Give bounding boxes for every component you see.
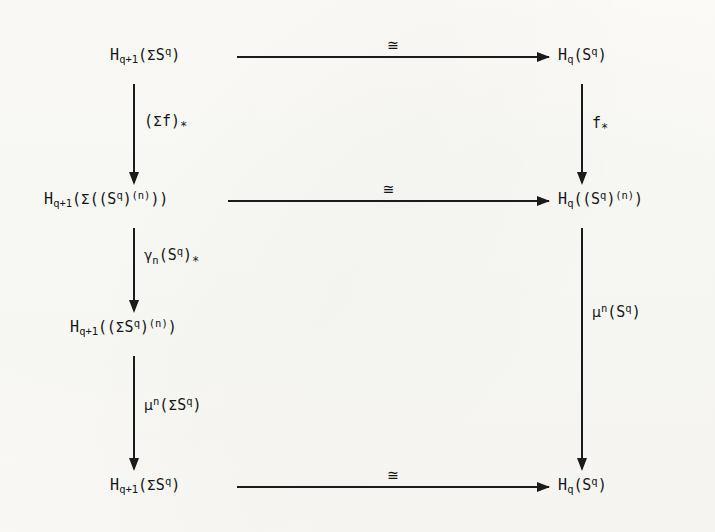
arrow-top-horizontal-label: ≅ — [387, 38, 399, 52]
node-bottom-right: Hq(Sq) — [558, 476, 606, 495]
arrow-left-mu-suspension: μn(ΣSq) — [133, 356, 135, 469]
node-top-right-text: Hq(Sq) — [558, 46, 606, 64]
arrow-top-horizontal: ≅ — [237, 56, 549, 58]
arrowhead-down-icon — [577, 172, 587, 185]
arrow-left-gamma: γn(Sq)* — [133, 228, 135, 311]
arrow-right-mu: μn(Sq) — [581, 228, 583, 469]
arrow-right-f-star-label: f* — [592, 116, 608, 134]
arrowhead-down-icon — [129, 172, 139, 185]
arrow-shaft — [237, 56, 549, 58]
arrow-left-suspension-f-label: (Σf)* — [144, 114, 187, 132]
arrowhead-down-icon — [129, 458, 139, 471]
node-row2-left: Hq+1(Σ((Sq)(n))) — [44, 190, 168, 209]
arrowhead-right-icon — [537, 482, 550, 492]
node-top-left-text: Hq+1(ΣSq) — [110, 46, 180, 64]
node-top-right: Hq(Sq) — [558, 46, 606, 65]
arrow-shaft — [133, 84, 135, 183]
node-row2-right: Hq((Sq)(n)) — [558, 190, 643, 209]
node-bottom-left: Hq+1(ΣSq) — [110, 476, 180, 495]
arrow-shaft — [581, 228, 583, 469]
arrow-right-f-star: f* — [581, 84, 583, 183]
arrow-shaft — [133, 228, 135, 311]
node-top-left: Hq+1(ΣSq) — [110, 46, 180, 65]
arrow-middle-horizontal-label: ≅ — [383, 182, 395, 196]
arrowhead-down-icon — [577, 458, 587, 471]
node-row3-left-text: Hq+1((ΣSq)(n)) — [70, 318, 176, 336]
node-row2-right-text: Hq((Sq)(n)) — [558, 190, 643, 208]
arrow-left-gamma-label: γn(Sq)* — [144, 246, 199, 267]
arrow-middle-horizontal: ≅ — [228, 200, 549, 202]
arrowhead-down-icon — [129, 300, 139, 313]
arrow-left-suspension-f: (Σf)* — [133, 84, 135, 183]
arrow-shaft — [228, 200, 549, 202]
arrow-shaft — [581, 84, 583, 183]
node-row2-left-text: Hq+1(Σ((Sq)(n))) — [44, 190, 168, 208]
arrow-left-mu-suspension-label: μn(ΣSq) — [144, 396, 202, 413]
arrow-bottom-horizontal: ≅ — [237, 486, 549, 488]
node-row3-left: Hq+1((ΣSq)(n)) — [70, 318, 176, 337]
commutative-diagram: Hq+1(ΣSq) ≅ Hq(Sq) (Σf)* f* Hq+1(Σ((Sq)(… — [0, 0, 715, 532]
arrow-shaft — [133, 356, 135, 469]
arrowhead-right-icon — [537, 196, 550, 206]
arrow-bottom-horizontal-label: ≅ — [387, 468, 399, 482]
arrowhead-right-icon — [537, 52, 550, 62]
node-bottom-left-text: Hq+1(ΣSq) — [110, 476, 180, 494]
arrow-shaft — [237, 486, 549, 488]
node-bottom-right-text: Hq(Sq) — [558, 476, 606, 494]
arrow-right-mu-label: μn(Sq) — [592, 303, 641, 320]
